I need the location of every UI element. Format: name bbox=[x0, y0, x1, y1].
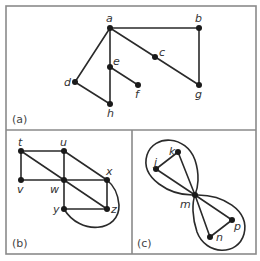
label-h: h bbox=[107, 107, 114, 120]
caption-c: (c) bbox=[137, 237, 152, 250]
graph-figure: a b c d e f g h (a) t u v w x y z (b) bbox=[0, 0, 260, 261]
label-u: u bbox=[60, 136, 67, 149]
label-y: y bbox=[52, 203, 60, 216]
node-y bbox=[61, 206, 67, 212]
panel-b: t u v w x y z (b) bbox=[12, 136, 119, 250]
node-d bbox=[72, 79, 78, 85]
node-m bbox=[192, 192, 198, 198]
label-g: g bbox=[195, 88, 202, 101]
node-k bbox=[175, 149, 181, 155]
label-w: w bbox=[50, 183, 59, 196]
node-b bbox=[196, 25, 202, 31]
panel-c: j k m n p (c) bbox=[137, 140, 245, 250]
label-m: m bbox=[180, 198, 191, 211]
label-c: c bbox=[159, 46, 165, 59]
panel-a: a b c d e f g h (a) bbox=[12, 12, 202, 126]
label-d: d bbox=[64, 76, 72, 89]
label-f: f bbox=[135, 88, 141, 101]
label-b: b bbox=[195, 12, 202, 25]
label-t: t bbox=[18, 136, 23, 149]
node-a bbox=[107, 25, 113, 31]
node-n bbox=[207, 234, 213, 240]
caption-a: (a) bbox=[12, 113, 27, 126]
node-c bbox=[152, 54, 158, 60]
label-k: k bbox=[169, 145, 176, 158]
label-n: n bbox=[216, 231, 223, 244]
caption-b: (b) bbox=[12, 237, 28, 250]
node-z bbox=[104, 206, 110, 212]
label-z: z bbox=[110, 203, 117, 216]
node-w bbox=[61, 177, 67, 183]
label-a: a bbox=[106, 12, 113, 25]
label-e: e bbox=[113, 55, 120, 68]
label-v: v bbox=[17, 183, 24, 196]
label-x: x bbox=[105, 165, 113, 178]
label-p: p bbox=[233, 220, 241, 233]
